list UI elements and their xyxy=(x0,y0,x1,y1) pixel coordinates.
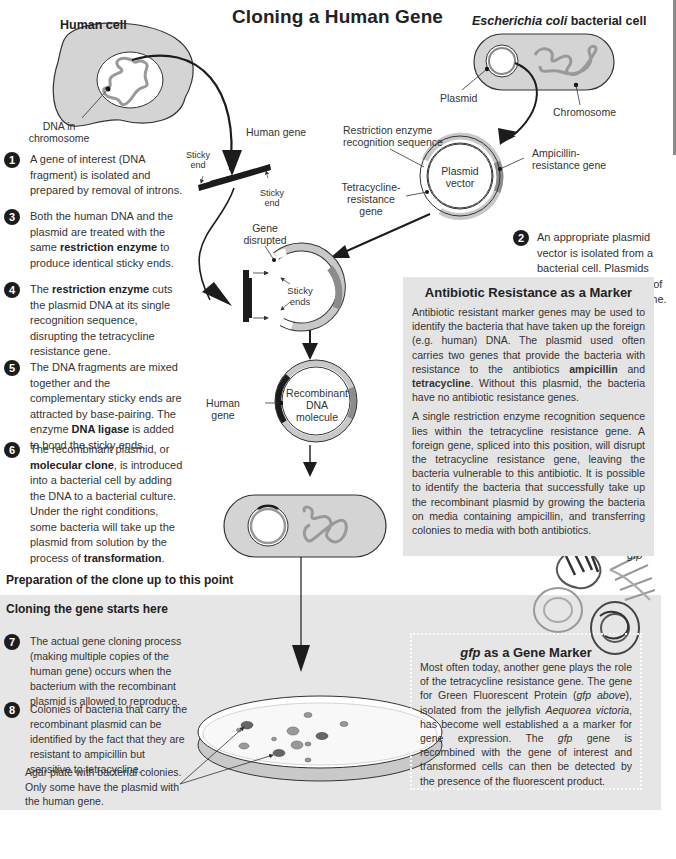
label-human-gene-line1: Human xyxy=(203,397,243,409)
label-sticky-line1: Sticky xyxy=(260,188,284,198)
term-ampicillin: ampicillin xyxy=(569,363,617,375)
antibiotic-resistance-box: Antibiotic Resistance as a Marker Antibi… xyxy=(403,277,654,556)
label-recombinant-line2: DNA xyxy=(286,399,348,411)
step-1-text: A gene of interest (DNA fragment) is iso… xyxy=(30,152,184,199)
step-number-badge: 7 xyxy=(4,634,20,650)
step-4-text: The restriction enzyme cuts the plasmid … xyxy=(30,282,184,360)
label-tetracycline-line1: Tetracycline- xyxy=(335,181,407,193)
paragraph-text: and xyxy=(618,363,645,375)
step-3: 3 Both the human DNA and the plasmid are… xyxy=(4,209,184,271)
label-ecoli-cell: Escherichia coli bacterial cell xyxy=(472,14,646,28)
paragraph-text: A single restriction enzyme recognition … xyxy=(412,410,645,536)
term-molecular-clone: molecular clone xyxy=(30,459,114,471)
label-tetracycline-line2: resistance gene xyxy=(335,193,407,217)
step-number-badge: 3 xyxy=(4,209,20,225)
step-6: 6 The recombinant plasmid, or molecular … xyxy=(4,442,184,566)
human-cell-graphic xyxy=(53,23,193,126)
label-recombinant-line3: molecule xyxy=(286,411,348,423)
term-restriction-enzyme: restriction enzyme xyxy=(52,283,149,295)
step-number-badge: 5 xyxy=(4,360,20,376)
step-4: 4 The restriction enzyme cuts the plasmi… xyxy=(4,282,184,360)
label-restriction-line2: recognition sequence xyxy=(343,136,443,148)
step-7: 7 The actual gene cloning process (makin… xyxy=(4,634,188,709)
label-dna-in-chromosome: DNA in chromosome xyxy=(24,120,94,144)
antibiotic-box-paragraph-1: Antibiotic resistant marker genes may be… xyxy=(412,305,645,404)
step-number-badge: 2 xyxy=(513,230,529,246)
label-sticky-line2: end xyxy=(260,198,284,208)
heading-cloning: Cloning the gene starts here xyxy=(6,602,168,616)
antibiotic-box-title: Antibiotic Resistance as a Marker xyxy=(412,285,645,300)
page-title: Cloning a Human Gene xyxy=(232,6,443,28)
step-7-text: The actual gene cloning process (making … xyxy=(30,634,188,709)
label-disrupted-line2: disrupted xyxy=(240,234,290,246)
step-text: , is introduced into a bacterial cell by… xyxy=(30,459,182,564)
arrow-vector-to-cut xyxy=(340,214,430,254)
step-number-badge: 1 xyxy=(4,152,20,168)
label-human-gene: Human gene xyxy=(246,126,306,138)
step-text: A gene of interest (DNA fragment) is iso… xyxy=(30,153,182,196)
step-5: 5 The DNA fragments are mixed together a… xyxy=(4,360,184,453)
term-aequorea-victoria: Aequorea victoria xyxy=(545,704,629,716)
label-sticky-ends: Sticky ends xyxy=(280,285,320,307)
step-text: The recombinant plasmid, or xyxy=(30,443,169,455)
label-disrupted-line1: Gene xyxy=(240,222,290,234)
label-restriction-sequence: Restriction enzyme recognition sequence xyxy=(343,124,443,148)
step-6-text: The recombinant plasmid, or molecular cl… xyxy=(30,442,184,566)
label-tetracycline-gene: Tetracycline- resistance gene xyxy=(335,181,407,217)
label-sticky-line1: Sticky xyxy=(186,150,210,160)
gfp-title-italic: gfp xyxy=(460,645,480,660)
label-chromosome: Chromosome xyxy=(553,106,616,118)
step-1: 1 A gene of interest (DNA fragment) is i… xyxy=(4,152,184,199)
step-text: The xyxy=(30,283,52,295)
step-text: The actual gene cloning process (making … xyxy=(30,635,181,707)
label-ampicillin-line2: resistance gene xyxy=(532,159,606,171)
label-vector-line2: vector xyxy=(435,177,485,189)
label-human-cell: Human cell xyxy=(60,18,127,32)
step-number-badge: 8 xyxy=(4,702,20,718)
label-ampicillin-gene: Ampicillin- resistance gene xyxy=(532,147,606,171)
label-dna-line2: chromosome xyxy=(24,132,94,144)
label-gene-disrupted: Gene disrupted xyxy=(240,222,290,246)
label-human-gene-line2: gene xyxy=(203,409,243,421)
gfp-box-paragraph: Most often today, another gene plays the… xyxy=(420,660,632,788)
step-5-text: The DNA fragments are mixed together and… xyxy=(30,360,184,453)
label-recombinant-dna: Recombinant DNA molecule xyxy=(286,387,348,423)
label-ampicillin-line1: Ampicillin- xyxy=(532,147,606,159)
step-number-badge: 4 xyxy=(4,282,20,298)
term-restriction-enzyme: restriction enzyme xyxy=(60,241,157,253)
agar-plate-caption: Agar plate with bacterial colonies. Only… xyxy=(25,765,185,809)
antibiotic-box-paragraph-2: A single restriction enzyme recognition … xyxy=(412,409,645,537)
term-transformation: transformation xyxy=(84,552,162,564)
label-sticky-end-right: Sticky end xyxy=(260,188,284,208)
step-number-badge: 6 xyxy=(4,442,20,458)
ecoli-cell-graphic xyxy=(462,34,614,105)
gfp-marker-box: gfp as a Gene Marker Most often today, a… xyxy=(410,633,642,790)
label-recombinant-line1: Recombinant xyxy=(286,387,348,399)
label-dna-line1: DNA in xyxy=(24,120,94,132)
label-sticky-end-left: Sticky end xyxy=(186,150,210,170)
term-tetracycline: tetracycline xyxy=(412,377,470,389)
label-human-gene-insert: Human gene xyxy=(203,397,243,421)
step-text: . xyxy=(161,552,164,564)
term-gfp-above: gfp above xyxy=(577,689,626,701)
label-ecoli-rest: bacterial cell xyxy=(567,14,646,28)
label-sticky-ends-line2: ends xyxy=(280,296,320,307)
label-ecoli-species: Escherichia coli xyxy=(472,14,567,28)
label-vector-line1: Plasmid xyxy=(435,165,485,177)
heading-preparation: Preparation of the clone up to this poin… xyxy=(6,573,233,587)
gfp-title-rest: as a Gene Marker xyxy=(480,645,591,660)
arrow-gene-to-insert xyxy=(199,188,234,300)
label-restriction-line1: Restriction enzyme xyxy=(343,124,443,136)
term-gfp: gfp xyxy=(558,732,573,744)
label-plasmid-vector: Plasmid vector xyxy=(435,165,485,189)
label-sticky-line2: end xyxy=(186,160,210,170)
label-sticky-ends-line1: Sticky xyxy=(280,285,320,296)
label-plasmid: Plasmid xyxy=(440,92,477,104)
term-dna-ligase: DNA ligase xyxy=(72,423,130,435)
step-3-text: Both the human DNA and the plasmid are t… xyxy=(30,209,184,271)
gfp-box-title: gfp as a Gene Marker xyxy=(420,645,632,660)
transformed-bacterium-graphic xyxy=(224,495,386,557)
